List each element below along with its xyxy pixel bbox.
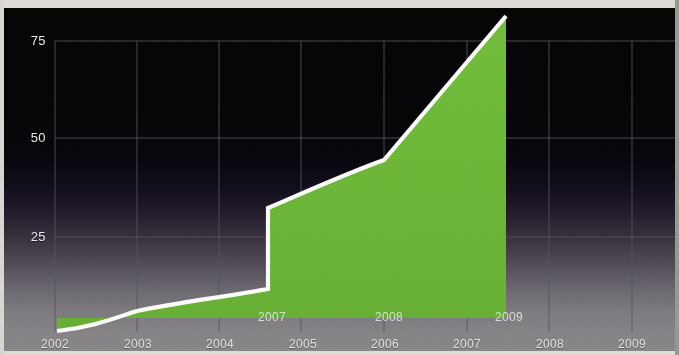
area-chart-plot [0,0,679,355]
x-tick-2005: 2005 [273,337,333,351]
x-tick-2008: 2008 [520,337,580,351]
x-tick-2002: 2002 [25,337,85,351]
image-edge-right [675,0,679,355]
x-tick-2007: 2007 [437,337,497,351]
x-tick-2003: 2003 [108,337,168,351]
inner-label-2008: 2008 [359,310,419,324]
y-tick-50: 50 [6,130,46,145]
inner-label-2009: 2009 [479,310,539,324]
x-tick-2009: 2009 [602,337,662,351]
area-fill [57,16,506,331]
image-edge-left [0,0,4,355]
inner-label-2007: 2007 [242,310,302,324]
image-edge-top [0,0,679,8]
x-tick-2004: 2004 [190,337,250,351]
chart-screenshot: 75 50 25 2007 2008 2009 2002 2003 2004 2… [0,0,679,355]
x-tick-2006: 2006 [355,337,415,351]
y-tick-25: 25 [6,229,46,244]
y-tick-75: 75 [6,33,46,48]
image-edge-bottom [0,351,679,355]
